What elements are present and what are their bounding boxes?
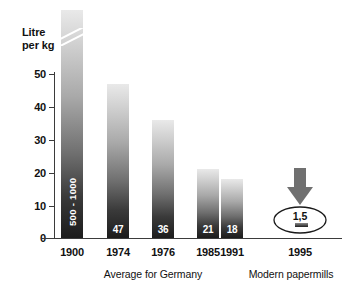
x-axis-label-1995: 1995 [277, 246, 323, 258]
x-axis-label-1900: 1900 [49, 246, 95, 258]
axis-break-marker [59, 28, 85, 46]
bar-1991[interactable]: 18 [221, 179, 243, 238]
bar-1995-stub[interactable] [295, 223, 308, 227]
x-axis-label-1974: 1974 [95, 246, 141, 258]
callout-value-1995: 1,5 [265, 210, 335, 222]
group-caption-papermills: Modern papermills [236, 268, 345, 280]
down-arrow-icon [287, 168, 313, 205]
bar-1985[interactable]: 21 [197, 169, 219, 238]
bar-value-1974: 47 [107, 224, 129, 235]
bar-value-1991: 18 [221, 224, 243, 235]
group-caption-germany: Average for Germany [88, 268, 218, 280]
bar-value-1900: 500 - 1000 [61, 171, 83, 233]
bar-1976[interactable]: 36 [152, 120, 174, 238]
chart-root: Litre per kg 50 40 30 20 10 0 500 - 1000… [0, 0, 345, 295]
callout-1995: 1,5 [265, 168, 335, 240]
bar-value-1976: 36 [152, 224, 174, 235]
x-axis-label-1991: 1991 [209, 246, 255, 258]
callout-graphics [265, 168, 335, 240]
bar-value-1985: 21 [197, 224, 219, 235]
x-axis-label-1976: 1976 [140, 246, 186, 258]
bar-1900[interactable]: 500 - 1000 [61, 10, 83, 238]
bar-1974[interactable]: 47 [107, 84, 129, 238]
